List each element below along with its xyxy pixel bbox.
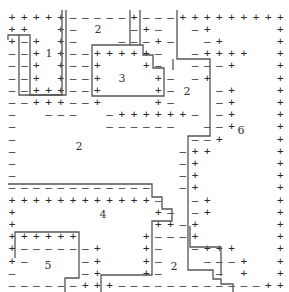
minus-sign: – [167,230,174,243]
plus-sign: + [277,206,284,219]
minus-sign: – [70,59,77,72]
plus-sign: + [155,35,162,48]
minus-sign: – [240,279,247,292]
plus-sign: + [204,23,211,36]
minus-sign: – [82,181,89,194]
plus-sign: + [179,11,186,24]
minus-sign: – [82,96,89,109]
plus-sign: + [228,11,235,24]
minus-sign: – [9,145,16,158]
minus-sign: – [179,230,186,243]
plus-sign: + [118,47,125,60]
minus-sign: – [131,120,138,133]
minus-sign: – [216,267,223,280]
plus-sign: + [33,96,40,109]
plus-sign: + [204,145,211,158]
minus-sign: – [70,279,77,292]
minus-sign: – [70,47,77,60]
minus-sign: – [45,181,52,194]
plus-sign: + [277,194,284,207]
plus-sign: + [228,84,235,97]
minus-sign: – [82,59,89,72]
minus-sign: – [192,108,199,121]
plus-sign: + [57,23,64,36]
plus-sign: + [131,194,138,207]
minus-sign: – [9,267,16,280]
minus-sign: – [70,242,77,255]
plus-sign: + [277,108,284,121]
minus-sign: – [70,108,77,121]
minus-sign: – [57,279,64,292]
minus-sign: – [143,120,150,133]
minus-sign: – [204,35,211,48]
plus-sign: + [82,194,89,207]
region-label: 5 [45,259,52,272]
plus-sign: + [277,23,284,36]
plus-sign: + [94,242,101,255]
plus-sign: + [9,11,16,24]
plus-sign: + [277,218,284,231]
minus-sign: – [155,267,162,280]
plus-sign: + [143,242,150,255]
plus-sign: + [143,255,150,268]
minus-sign: – [131,35,138,48]
plus-sign: + [192,169,199,182]
plus-sign: + [277,84,284,97]
plus-sign: + [94,59,101,72]
plus-sign: + [21,11,28,24]
plus-sign: + [94,267,101,280]
plus-sign: + [228,120,235,133]
minus-sign: – [57,242,64,255]
plus-sign: + [143,47,150,60]
plus-sign: + [277,35,284,48]
minus-sign: – [118,35,125,48]
minus-sign: – [167,96,174,109]
plus-sign: + [277,181,284,194]
plus-sign: + [192,181,199,194]
minus-sign: – [21,72,28,85]
minus-sign: – [192,206,199,219]
minus-sign: – [167,120,174,133]
minus-sign: – [204,279,211,292]
plus-sign: + [277,169,284,182]
plus-sign: + [70,194,77,207]
minus-sign: – [192,242,199,255]
plus-sign: + [216,11,223,24]
minus-sign: – [106,120,113,133]
plus-sign: + [9,218,16,231]
plus-sign: + [143,230,150,243]
plus-sign: + [192,11,199,24]
plus-sign: + [277,145,284,158]
plus-sign: + [106,279,113,292]
minus-sign: – [9,84,16,97]
minus-sign: – [167,279,174,292]
region-label: 6 [238,124,245,137]
minus-sign: – [9,169,16,182]
minus-sign: – [155,47,162,60]
plus-sign: + [216,47,223,60]
plus-sign: + [204,206,211,219]
minus-sign: – [33,279,40,292]
minus-sign: – [216,279,223,292]
minus-sign: – [9,72,16,85]
minus-sign: – [131,181,138,194]
plus-sign: + [57,96,64,109]
minus-sign: – [9,59,16,72]
minus-sign: – [9,108,16,121]
minus-sign: – [21,96,28,109]
plus-sign: + [277,255,284,268]
minus-sign: – [253,279,260,292]
plus-sign: + [216,242,223,255]
plus-sign: + [57,59,64,72]
minus-sign: – [131,23,138,36]
minus-sign: – [118,181,125,194]
minus-sign: – [118,120,125,133]
plus-sign: + [94,84,101,97]
plus-sign: + [167,108,174,121]
minus-sign: – [228,279,235,292]
plus-sign: + [240,267,247,280]
plus-sign: + [192,157,199,170]
plus-sign: + [192,218,199,231]
minus-sign: – [216,108,223,121]
plus-sign: + [277,47,284,60]
